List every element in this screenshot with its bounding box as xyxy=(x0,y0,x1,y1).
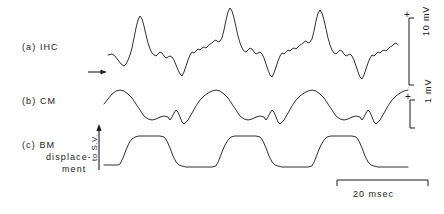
polarity-plus-ihc: + xyxy=(404,10,411,20)
calibration-label-to-sv: to S.V. xyxy=(90,134,99,161)
calibration-bar-time xyxy=(337,180,428,186)
figure-panel: (a) IHC (b) CM (c) BM displace- ment + 1… xyxy=(0,0,444,214)
trace-label-ihc: (a) IHC xyxy=(22,42,59,52)
calibration-bar-1mv xyxy=(410,100,415,128)
trace-label-bm-line2: displace- xyxy=(46,152,92,162)
trace-label-bm-line1: (c) BM xyxy=(22,140,55,150)
calibration-label-1mv: 1 mV xyxy=(423,79,433,103)
trace-cm xyxy=(104,90,408,124)
trace-ihc xyxy=(108,8,398,79)
baseline-arrow xyxy=(88,70,106,75)
calibration-label-10mv: 10 mV xyxy=(421,6,431,36)
trace-bm-displacement xyxy=(104,136,408,167)
trace-label-cm: (b) CM xyxy=(22,96,56,106)
trace-label-bm-line3: ment xyxy=(62,164,86,174)
calibration-label-time: 20 msec xyxy=(353,189,394,199)
figure-canvas xyxy=(0,0,444,214)
calibration-bar-10mv xyxy=(409,18,414,85)
polarity-plus-cm: + xyxy=(405,92,412,102)
